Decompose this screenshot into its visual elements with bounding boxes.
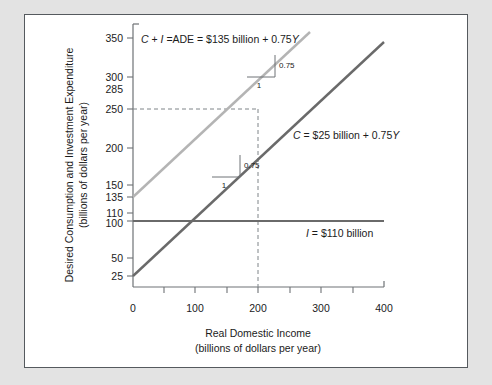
- slope-run-label: 1: [257, 81, 262, 90]
- x-tick-label: 200: [249, 302, 267, 314]
- x-axis-title: Real Domestic Income: [205, 327, 311, 339]
- y-tick-label: 300: [105, 71, 123, 83]
- y-axis-title: Desired Consumption and Investment Expen…: [63, 48, 75, 283]
- slope-rise-label: 0.75: [244, 161, 260, 170]
- slope-triangle-c: 0.75 1: [212, 155, 260, 190]
- y-axis-subtitle: (billions of dollars per year): [77, 102, 89, 228]
- ade-label-rest: =ADE = $135 billion + 0.75: [163, 33, 291, 45]
- x-tick-label: 100: [186, 302, 204, 314]
- slope-rise-label: 0.75: [279, 61, 295, 70]
- y-tick-label: 50: [111, 252, 123, 264]
- x-tick-label: 0: [130, 302, 136, 314]
- consumption-line-label: C = $25 billion + 0.75Y: [293, 129, 400, 141]
- ade-label-y: Y: [292, 33, 300, 45]
- y-tick-marks: [127, 38, 133, 276]
- investment-line-label: I = $110 billion: [306, 227, 373, 239]
- x-tick-label: 300: [312, 302, 330, 314]
- c-label-rest: = $25 billion + 0.75: [301, 129, 393, 141]
- y-tick-label: 285: [105, 83, 123, 95]
- x-tick-labels: 0 100 200 300 400: [130, 302, 393, 314]
- y-tick-label: 100: [105, 217, 123, 229]
- y-tick-labels: 350 300 285 250 200 150 135 110 100 50 2…: [105, 32, 123, 282]
- y-tick-label: 250: [105, 103, 123, 115]
- i-label-rest: = $110 billion: [309, 227, 373, 239]
- y-tick-label: 200: [105, 142, 123, 154]
- y-tick-label: 150: [105, 179, 123, 191]
- slope-run-label: 1: [222, 181, 227, 190]
- ade-label-plus: +: [149, 33, 161, 45]
- x-tick-marks: [164, 287, 353, 293]
- x-tick-label: 400: [375, 302, 393, 314]
- figure-panel: 350 300 285 250 200 150 135 110 100 50 2…: [24, 14, 468, 368]
- ade-line-label: C + I =ADE = $135 billion + 0.75Y: [141, 33, 300, 45]
- y-tick-label: 25: [111, 270, 123, 282]
- x-axis-subtitle: (billions of dollars per year): [195, 342, 321, 354]
- ade-line: [133, 32, 310, 197]
- y-tick-label: 350: [105, 32, 123, 44]
- y-tick-label: 135: [105, 191, 123, 203]
- c-label-y: Y: [392, 129, 400, 141]
- expenditure-chart: 350 300 285 250 200 150 135 110 100 50 2…: [25, 15, 467, 367]
